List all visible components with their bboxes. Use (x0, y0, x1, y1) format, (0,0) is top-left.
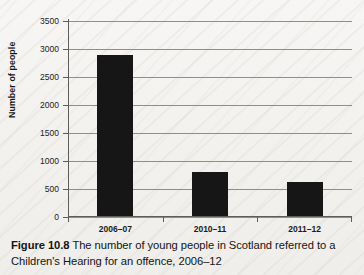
gridline-3500 (68, 21, 352, 22)
x-tick-label-2010–11: 2010–11 (194, 224, 227, 234)
gridline-0 (68, 217, 352, 218)
x-axis-spine (68, 216, 352, 217)
x-tick-mark-3 (351, 217, 352, 222)
y-tick-label-3500: 3500 (40, 16, 59, 26)
x-tick-mark-1 (163, 217, 164, 222)
figure-caption-label: Figure 10.8 (11, 239, 70, 251)
y-tick-label-2000: 2000 (40, 100, 59, 110)
y-tick-label-1500: 1500 (40, 128, 59, 138)
y-axis-spine (68, 19, 69, 219)
y-tick-label-3000: 3000 (40, 44, 59, 54)
x-tick-mark-2 (257, 217, 258, 222)
x-tick-label-2006–07: 2006–07 (99, 224, 132, 234)
y-tick-label-1000: 1000 (40, 156, 59, 166)
y-tick-label-500: 500 (45, 184, 59, 194)
bar-2011–12 (287, 182, 323, 217)
gridline-3000 (68, 49, 352, 50)
figure-10-8: Number of people 05001000150020002500300… (0, 0, 364, 275)
x-tick-label-2011–12: 2011–12 (288, 224, 321, 234)
y-tick-label-0: 0 (54, 212, 59, 222)
y-tick-label-2500: 2500 (40, 72, 59, 82)
bar-2006–07 (97, 55, 133, 217)
figure-caption: Figure 10.8 The number of young people i… (11, 238, 355, 269)
plot-area: 05001000150020002500300035002006–072010–… (68, 21, 352, 217)
y-axis-title: Number of people (7, 42, 17, 118)
bar-2010–11 (192, 172, 228, 217)
